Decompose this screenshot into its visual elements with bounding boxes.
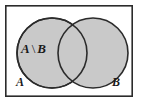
- expression-operand-right: B: [37, 41, 47, 56]
- set-b-label: B: [112, 76, 120, 88]
- venn-diagram-figure: A\B A B: [0, 0, 143, 105]
- expression-operand-left: A: [21, 41, 31, 56]
- region-label-a-minus-b: A\B: [21, 42, 47, 55]
- set-a-label: A: [16, 76, 24, 88]
